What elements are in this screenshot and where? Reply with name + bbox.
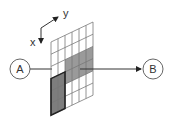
x-axis-label: x — [30, 36, 36, 48]
node-a-label: A — [16, 63, 24, 75]
node-a: A — [10, 59, 30, 79]
node-b: B — [143, 59, 163, 79]
diagram-canvas: y x A — [0, 0, 174, 124]
axes-indicator: y x — [30, 7, 69, 48]
y-axis-label: y — [63, 7, 69, 19]
node-b-label: B — [149, 63, 156, 75]
